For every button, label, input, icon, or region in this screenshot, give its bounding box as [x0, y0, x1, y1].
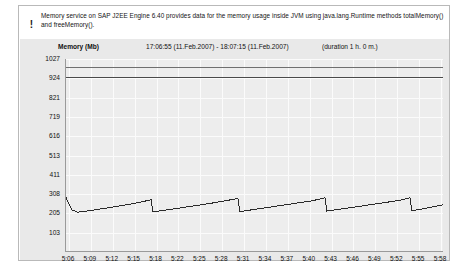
y-tick-label: 924	[20, 74, 60, 82]
series-layer	[66, 59, 443, 251]
info-block: ! Memory service on SAP J2EE Engine 6.40…	[25, 10, 445, 40]
screenshot-root: ! Memory service on SAP J2EE Engine 6.40…	[0, 0, 456, 277]
plot-area	[65, 59, 443, 252]
y-tick-label: 1027	[20, 55, 60, 63]
plot-inner	[66, 59, 443, 251]
chart-duration: (duration 1 h. 0 m.)	[322, 43, 378, 50]
exclamation-icon: !	[27, 18, 36, 32]
chart-time-range: 17:06:55 (11.Feb.2007) - 18:07:15 (11.Fe…	[146, 43, 289, 50]
memory-chart: Memory (Mb) 17:06:55 (11.Feb.2007) - 18:…	[20, 39, 449, 260]
x-tick-label: 5:58	[427, 255, 453, 263]
y-tick-label: 103	[20, 229, 60, 237]
series-line	[66, 198, 443, 213]
y-tick-label: 513	[20, 152, 60, 160]
y-tick-label: 205	[20, 209, 60, 217]
y-tick-label: 616	[20, 132, 60, 140]
y-tick-label: 411	[20, 171, 60, 179]
chart-title: Memory (Mb)	[58, 43, 99, 50]
x-axis-labels: 5:065:095:125:155:185:225:255:285:315:34…	[65, 253, 447, 265]
y-tick-label: 308	[20, 190, 60, 198]
info-description: Memory service on SAP J2EE Engine 6.40 p…	[41, 11, 445, 30]
y-tick-label: 821	[20, 94, 60, 102]
y-tick-label: 719	[20, 113, 60, 121]
y-axis-labels: 1027924821719616513411308205103	[20, 59, 63, 259]
chart-header: Memory (Mb) 17:06:55 (11.Feb.2007) - 18:…	[20, 42, 449, 55]
memory-service-panel: ! Memory service on SAP J2EE Engine 6.40…	[18, 5, 450, 261]
